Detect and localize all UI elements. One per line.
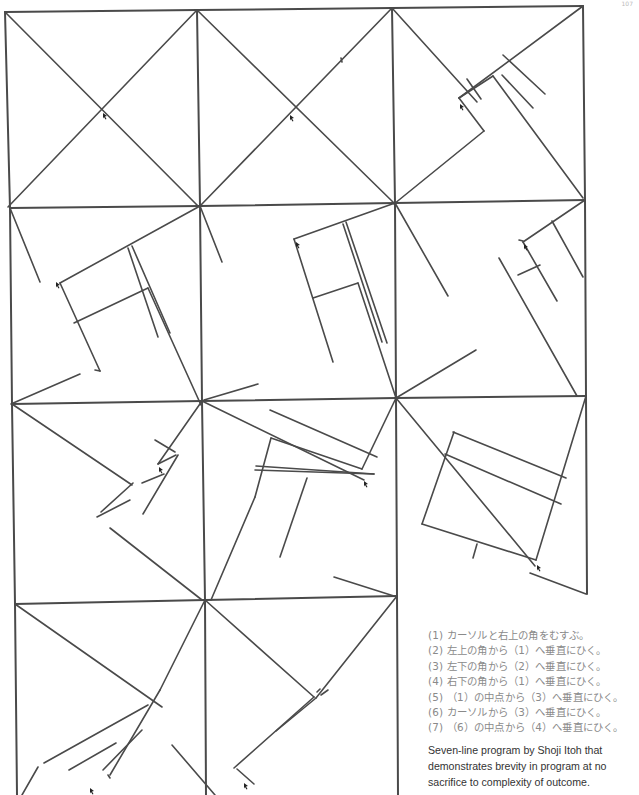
construction-line bbox=[74, 288, 148, 323]
construction-line bbox=[346, 222, 387, 343]
program-steps-list: (1) カーソルと右上の角をむすぶ。 (2) 左上の角から（1）へ垂直にひく。 … bbox=[428, 628, 638, 736]
construction-line bbox=[294, 203, 395, 239]
construction-line bbox=[234, 697, 314, 768]
frame-edge bbox=[205, 596, 397, 600]
construction-line bbox=[396, 398, 535, 566]
construction-line bbox=[358, 283, 396, 398]
construction-line bbox=[201, 8, 392, 205]
construction-line bbox=[69, 743, 116, 770]
construction-line bbox=[204, 384, 258, 400]
cursor-arrow-icon bbox=[159, 467, 163, 474]
construction-line bbox=[294, 239, 333, 362]
frame-edge bbox=[395, 200, 585, 203]
program-step: (6) カーソルから（3）へ垂直にひく。 bbox=[428, 705, 638, 720]
frame-edge bbox=[202, 401, 205, 600]
construction-line bbox=[503, 55, 545, 94]
construction-line bbox=[155, 440, 175, 452]
construction-line bbox=[12, 404, 132, 485]
construction-line bbox=[519, 240, 523, 241]
construction-line bbox=[334, 577, 397, 597]
frame-edge bbox=[395, 203, 396, 398]
construction-line bbox=[10, 208, 40, 282]
construction-line bbox=[394, 131, 484, 204]
construction-line bbox=[493, 76, 583, 198]
construction-line bbox=[15, 604, 162, 707]
construction-line bbox=[132, 246, 170, 333]
frame-edge bbox=[585, 200, 586, 396]
frame-edge bbox=[10, 206, 200, 208]
construction-line bbox=[316, 596, 397, 698]
construction-line bbox=[148, 288, 201, 405]
construction-line bbox=[110, 690, 160, 775]
construction-line bbox=[459, 98, 484, 131]
construction-line bbox=[237, 769, 254, 784]
construction-line bbox=[453, 432, 566, 478]
construction-line bbox=[271, 438, 362, 469]
construction-line bbox=[552, 221, 583, 277]
construction-line bbox=[518, 265, 540, 275]
construction-line bbox=[396, 350, 476, 398]
construction-line bbox=[459, 6, 583, 98]
construction-line bbox=[395, 203, 448, 296]
construction-line bbox=[97, 500, 130, 517]
construction-line bbox=[95, 370, 100, 371]
program-step: (5) （1）の中点から（3）へ垂直にひく。 bbox=[428, 690, 638, 705]
construction-line bbox=[101, 483, 133, 512]
construction-line bbox=[110, 528, 202, 600]
cursor-arrow-icon bbox=[290, 115, 294, 122]
cursor-arrow-icon bbox=[364, 481, 368, 488]
construction-line bbox=[499, 258, 577, 396]
construction-line bbox=[172, 745, 215, 795]
construction-line bbox=[422, 432, 454, 524]
frame-edge bbox=[200, 203, 395, 206]
construction-line bbox=[158, 401, 202, 464]
construction-line bbox=[211, 497, 255, 600]
frame-edge bbox=[10, 208, 12, 404]
construction-line bbox=[422, 524, 536, 560]
cursor-arrow-icon bbox=[244, 783, 248, 790]
construction-line bbox=[60, 206, 200, 283]
frame-edge bbox=[197, 8, 392, 10]
construction-line bbox=[502, 75, 533, 108]
construction-line bbox=[22, 767, 38, 795]
construction-line bbox=[280, 478, 307, 557]
frame-edge bbox=[5, 10, 197, 12]
frame-edge bbox=[392, 6, 583, 8]
caption: (1) カーソルと右上の角をむすぶ。 (2) 左上の角から（1）へ垂直にひく。 … bbox=[428, 628, 638, 790]
construction-line bbox=[143, 455, 178, 514]
frame-edge bbox=[392, 8, 395, 203]
construction-line bbox=[392, 8, 477, 102]
construction-line bbox=[343, 224, 382, 342]
construction-line bbox=[128, 248, 158, 337]
program-step: (3) 左下の角から（2）へ垂直にひく。 bbox=[428, 659, 638, 674]
construction-line bbox=[270, 410, 377, 457]
figure-description: Seven-line program by Shoji Itoh that de… bbox=[428, 742, 628, 790]
frame-edge bbox=[197, 10, 200, 206]
construction-line bbox=[536, 396, 586, 560]
construction-line bbox=[317, 689, 320, 692]
construction-line bbox=[523, 200, 585, 242]
frame-edge bbox=[200, 206, 202, 401]
construction-line bbox=[142, 474, 164, 483]
construction-line bbox=[205, 600, 314, 697]
construction-line bbox=[341, 58, 342, 62]
construction-line bbox=[530, 573, 586, 594]
frame-edge bbox=[396, 398, 397, 596]
frame-edge bbox=[12, 404, 15, 604]
construction-line bbox=[473, 544, 477, 558]
construction-line bbox=[362, 398, 396, 469]
construction-line bbox=[103, 730, 142, 770]
frame-edge bbox=[397, 596, 398, 795]
frame-edge bbox=[15, 604, 17, 795]
cursor-arrow-icon bbox=[537, 565, 541, 572]
program-step: (2) 左上の角から（1）へ垂直にひく。 bbox=[428, 643, 638, 658]
construction-line bbox=[313, 283, 358, 298]
frame-edge bbox=[202, 398, 396, 401]
construction-line bbox=[60, 283, 100, 371]
construction-line bbox=[523, 242, 557, 301]
frame-edge bbox=[205, 600, 206, 795]
construction-line bbox=[200, 206, 222, 262]
construction-line bbox=[467, 79, 481, 99]
frame-edge bbox=[396, 396, 586, 398]
frame-edge bbox=[586, 396, 587, 594]
